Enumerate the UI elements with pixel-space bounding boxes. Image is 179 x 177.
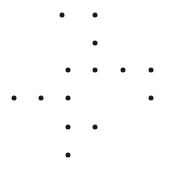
data-point [93, 125, 98, 130]
data-point [66, 153, 71, 158]
data-point [66, 96, 71, 101]
data-point [121, 68, 126, 73]
data-point [93, 68, 98, 73]
data-point [66, 68, 71, 73]
data-point [39, 96, 44, 101]
dot-plot-canvas [0, 0, 179, 177]
data-point [60, 13, 65, 18]
data-point [149, 68, 154, 73]
data-point [93, 41, 98, 46]
data-point [149, 96, 154, 101]
data-point [12, 96, 17, 101]
data-point [66, 125, 71, 130]
data-point [93, 13, 98, 18]
